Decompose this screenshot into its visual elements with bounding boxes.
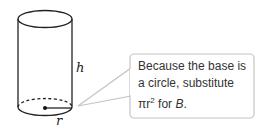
cylinder-shape bbox=[18, 11, 72, 116]
callout-text: Because the base is a circle, substitute… bbox=[138, 58, 256, 113]
pi-r: πr bbox=[138, 97, 150, 111]
callout-pointer bbox=[78, 68, 131, 106]
callout-line-2: a circle, substitute bbox=[138, 75, 256, 92]
radius-label: r bbox=[56, 113, 62, 128]
top-ellipse bbox=[18, 11, 72, 28]
callout-line-3: πr2 for B. bbox=[138, 92, 256, 113]
period: . bbox=[183, 97, 186, 111]
callout-line-1: Because the base is bbox=[138, 58, 256, 75]
for-text: for bbox=[155, 97, 176, 111]
bottom-back-arc bbox=[18, 99, 72, 108]
center-point bbox=[43, 106, 47, 110]
height-label: h bbox=[76, 60, 84, 75]
